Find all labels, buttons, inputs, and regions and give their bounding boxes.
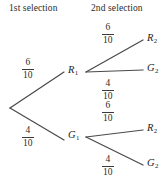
tree-edges (0, 0, 168, 184)
probability-root-to-g1-numerator: 4 (22, 126, 34, 136)
node-g2-from-r1-subscript: 2 (155, 67, 158, 74)
probability-g1-to-g2: 4 10 (102, 155, 114, 177)
node-r2-from-g1: R2 (147, 122, 157, 133)
node-g1-letter: G (68, 129, 76, 140)
probability-root-to-r1-numerator: 6 (22, 58, 34, 68)
column-header-first-selection: 1st selection (9, 3, 58, 13)
probability-r1-to-g2-numerator: 4 (102, 79, 114, 89)
node-r2-from-r1-subscript: 2 (154, 37, 157, 44)
column-header-second-selection: 2nd selection (91, 3, 143, 13)
node-g2-from-g1-letter: G (147, 157, 155, 168)
probability-g1-to-g2-denominator: 10 (102, 167, 114, 177)
probability-root-to-r1: 6 10 (22, 58, 34, 80)
node-g2-from-r1-letter: G (147, 62, 155, 73)
edge-g1-to-r2 (86, 130, 143, 137)
node-g2-from-g1-subscript: 2 (155, 162, 158, 169)
node-r2-from-r1-letter: R (147, 32, 153, 43)
probability-root-to-r1-denominator: 10 (22, 70, 34, 80)
node-g2-from-g1: G2 (147, 157, 158, 168)
probability-r1-to-r2: 6 10 (102, 23, 114, 45)
node-r2-from-g1-subscript: 2 (154, 127, 157, 134)
node-g1: G1 (68, 129, 79, 140)
edge-r1-to-r2 (86, 40, 143, 72)
node-r2-from-g1-letter: R (147, 122, 153, 133)
edge-root-to-r1 (10, 72, 64, 108)
probability-r1-to-g2: 4 10 (102, 79, 114, 101)
probability-r1-to-r2-denominator: 10 (102, 35, 114, 45)
edge-r1-to-g2 (86, 70, 143, 72)
node-r1-letter: R (68, 64, 74, 75)
probability-g1-to-r2-numerator: 6 (102, 101, 114, 111)
edge-root-to-g1 (10, 108, 64, 140)
probability-tree-diagram: 1st selection 2nd selection R1 G1 R2 G2 … (0, 0, 168, 184)
probability-g1-to-r2-denominator: 10 (102, 113, 114, 123)
probability-root-to-g1-denominator: 10 (22, 138, 34, 148)
probability-g1-to-g2-numerator: 4 (102, 155, 114, 165)
edge-g1-to-g2 (86, 137, 143, 165)
node-r1-subscript: 1 (75, 69, 78, 76)
probability-r1-to-r2-numerator: 6 (102, 23, 114, 33)
node-g2-from-r1: G2 (147, 62, 158, 73)
node-r2-from-r1: R2 (147, 32, 157, 43)
probability-g1-to-r2: 6 10 (102, 101, 114, 123)
node-g1-subscript: 1 (76, 134, 79, 141)
probability-root-to-g1: 4 10 (22, 126, 34, 148)
node-r1: R1 (68, 64, 78, 75)
